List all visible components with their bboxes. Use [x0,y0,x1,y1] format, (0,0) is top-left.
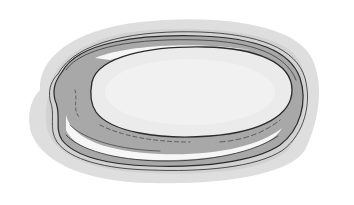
center-highlight [105,59,275,125]
oval-stone-sketch [0,0,354,205]
illustration: sketched flat oval stone / dish with lay… [0,0,354,205]
